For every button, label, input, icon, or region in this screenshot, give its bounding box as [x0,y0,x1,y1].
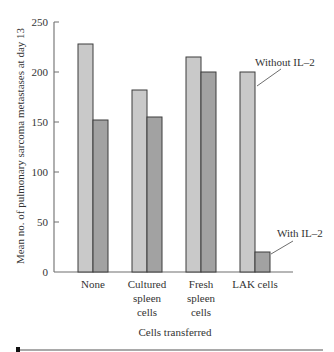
y-axis-title: Mean no. of pulmonary sarcoma metastases… [14,27,26,264]
x-category-label: None [81,278,105,290]
bar-without-il2 [132,90,147,272]
bar-with-il2 [201,72,216,272]
y-tick-label: 100 [32,166,49,178]
x-category-label: Cultured [128,278,167,290]
y-tick-label: 200 [32,66,49,78]
x-axis-title: Cells transferred [139,326,212,338]
bar-with-il2 [93,120,108,272]
bars [78,44,270,272]
category-labels: NoneCulturedspleencellsFreshspleencellsL… [81,278,278,318]
bar-without-il2 [78,44,93,272]
x-category-label: LAK cells [232,278,278,290]
bottom-rule [16,347,323,352]
bar-chart: 050100150200250 NoneCulturedspleencellsF… [0,0,334,352]
annotation-with-il2: With IL–2 [277,227,323,239]
bar-with-il2 [147,117,162,272]
annotation-without-il2: Without IL–2 [255,56,315,68]
y-tick-label: 250 [32,16,49,28]
y-tick-label: 50 [37,216,49,228]
x-category-label: spleen [187,292,216,304]
x-category-label: cells [191,306,211,318]
y-tick-label: 150 [32,116,49,128]
x-category-label: Fresh [189,278,214,290]
bar-without-il2 [186,57,201,272]
annotations: Without IL–2With IL–2 [255,56,323,254]
x-category-label: cells [137,306,157,318]
y-axis: 050100150200250 [32,16,60,278]
x-category-label: spleen [133,292,162,304]
y-tick-label: 0 [43,266,49,278]
bar-without-il2 [240,72,255,272]
bar-with-il2 [255,252,270,272]
